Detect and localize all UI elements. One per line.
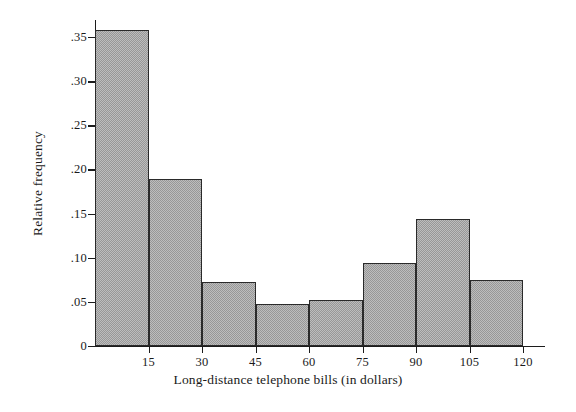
y-axis-tick-label: 0 <box>81 340 87 353</box>
x-axis-tick <box>149 346 150 353</box>
x-axis-tick <box>256 346 257 353</box>
y-axis-tick <box>88 346 95 347</box>
y-axis-tick-labels: .35.30.25.20.15.10.050 <box>51 20 87 347</box>
histogram-bar <box>309 300 363 346</box>
x-axis-tick <box>523 346 524 353</box>
y-axis-tick-label: .35 <box>71 31 87 44</box>
histogram-bar <box>363 263 417 346</box>
x-axis-tick-label: 90 <box>410 356 423 369</box>
y-axis-tick <box>88 81 95 82</box>
y-axis-tick <box>88 37 95 38</box>
histogram-bar <box>256 304 310 346</box>
x-axis-tick-label: 75 <box>356 356 369 369</box>
histogram-bar <box>95 30 149 346</box>
x-axis-tick-label: 15 <box>142 356 155 369</box>
x-axis-tick-label: 30 <box>196 356 209 369</box>
y-axis-title: Relative frequency <box>30 20 50 347</box>
x-axis-tick <box>363 346 364 353</box>
y-axis-title-wrapper: Relative frequency <box>14 20 34 347</box>
histogram-bar <box>416 219 470 346</box>
histogram-bar <box>202 282 256 346</box>
y-axis-tick <box>88 169 95 170</box>
y-axis-tick <box>88 214 95 215</box>
plot-area: .35.30.25.20.15.10.050 15304560759010512… <box>95 20 545 347</box>
y-axis-tick-label: .30 <box>71 75 87 88</box>
y-axis-tick-label: .25 <box>71 119 87 132</box>
x-axis-title: Long-distance telephone bills (in dollar… <box>0 372 576 388</box>
y-axis-tick <box>88 258 95 259</box>
histogram-bar <box>470 280 524 346</box>
x-axis-tick-label: 105 <box>460 356 479 369</box>
histogram-figure: .35.30.25.20.15.10.050 15304560759010512… <box>0 0 576 412</box>
y-axis-tick <box>88 302 95 303</box>
x-axis-tick-label: 120 <box>513 356 532 369</box>
x-axis-tick-label: 60 <box>303 356 316 369</box>
x-axis-tick <box>416 346 417 353</box>
x-axis-tick <box>202 346 203 353</box>
y-axis-tick <box>88 125 95 126</box>
x-axis-tick <box>470 346 471 353</box>
y-axis-tick-label: .10 <box>71 252 87 265</box>
histogram-bar <box>149 179 203 346</box>
x-axis-tick <box>309 346 310 353</box>
y-axis-tick-label: .05 <box>71 296 87 309</box>
y-axis-tick-label: .15 <box>71 208 87 221</box>
x-axis-line <box>95 346 545 347</box>
y-axis-tick-label: .20 <box>71 163 87 176</box>
x-axis-tick-label: 45 <box>249 356 262 369</box>
